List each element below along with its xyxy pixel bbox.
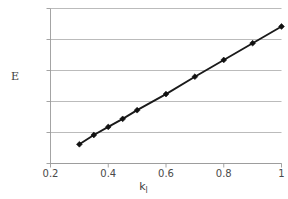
x-axis-title: kl: [0, 180, 287, 197]
x-axis-tick-label: 0.2: [31, 169, 71, 179]
x-axis-tick-label: 0.6: [146, 169, 186, 179]
x-axis-title-subscript: l: [146, 186, 148, 195]
x-axis-tick-labels: 0.20.40.60.81: [0, 163, 287, 181]
chart-container: E 0.511.522.53 0.20.40.60.81 kl: [0, 0, 287, 199]
x-axis-tick-label: 0.8: [204, 169, 244, 179]
x-axis-tick-label: 0.4: [88, 169, 128, 179]
x-axis-tick-label: 1: [262, 169, 288, 179]
data-series: [76, 24, 284, 148]
